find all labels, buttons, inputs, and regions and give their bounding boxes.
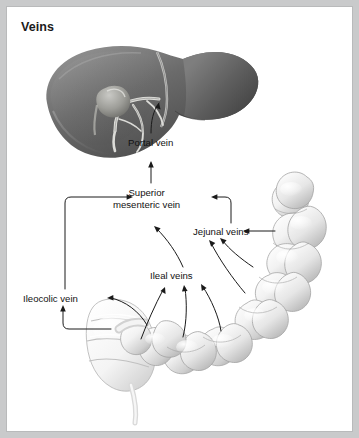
label-superior-mesenteric-vein-line2: mesenteric vein	[113, 199, 180, 211]
label-ileocolic-vein: Ileocolic vein	[23, 293, 78, 305]
anatomy-artwork	[7, 7, 352, 431]
figure-panel: Veins	[6, 6, 353, 432]
label-superior-mesenteric-vein-line1: Superior	[113, 187, 180, 199]
label-superior-mesenteric-vein: Superior mesenteric vein	[113, 187, 180, 210]
label-jejunal-veins: Jejunal veins	[193, 226, 248, 238]
label-portal-vein: Portal vein	[128, 137, 173, 149]
figure-frame: Veins	[0, 0, 359, 438]
label-ileal-veins: Ileal veins	[150, 270, 193, 282]
